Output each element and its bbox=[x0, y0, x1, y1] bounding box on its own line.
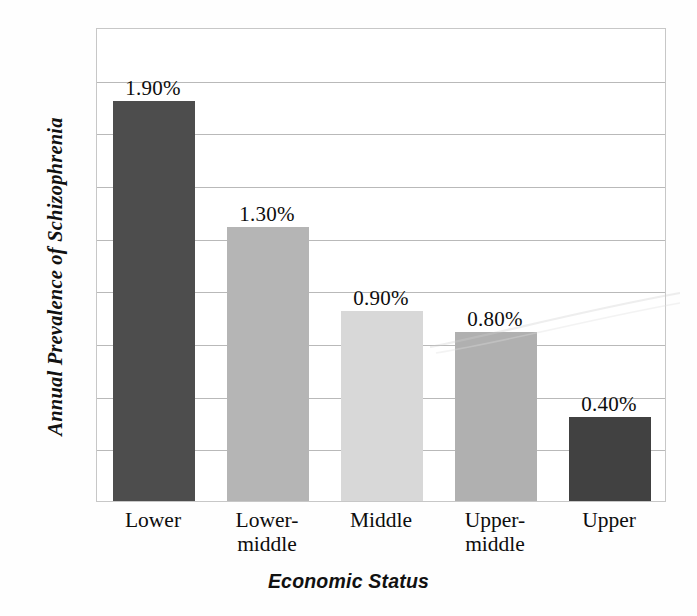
bar-value-label: 0.90% bbox=[324, 286, 438, 311]
x-axis-category-label: Upper bbox=[544, 508, 674, 532]
x-axis-category-label: Lower bbox=[88, 508, 218, 532]
bar bbox=[227, 227, 309, 501]
x-axis-category-label: Middle bbox=[316, 508, 446, 532]
x-axis-category-label: Upper- middle bbox=[430, 508, 560, 556]
y-axis-title: Annual Prevalence of Schizophrenia bbox=[44, 42, 67, 512]
x-axis-title: Economic Status bbox=[0, 570, 697, 593]
bar bbox=[113, 101, 195, 501]
bar-value-label: 0.40% bbox=[552, 392, 666, 417]
bar bbox=[341, 311, 423, 501]
bar-value-label: 1.30% bbox=[210, 202, 324, 227]
x-axis-category-label: Lower- middle bbox=[202, 508, 332, 556]
bar bbox=[569, 417, 651, 501]
bar bbox=[455, 332, 537, 501]
bar-value-label: 1.90% bbox=[96, 76, 210, 101]
bar-chart-figure: Annual Prevalence of Schizophrenia Econo… bbox=[0, 0, 697, 616]
bar-value-label: 0.80% bbox=[438, 307, 552, 332]
